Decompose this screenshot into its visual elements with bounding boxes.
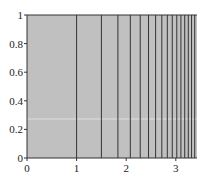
y-tick-label: 0.2 [9, 123, 23, 135]
y-tick-label: 1 [18, 9, 24, 21]
y-tick-label: 0.8 [9, 38, 23, 50]
x-tick-label: 2 [123, 162, 129, 174]
x-tick-label: 3 [173, 162, 179, 174]
y-tick-label: 0.6 [9, 66, 23, 78]
x-tick-label: 0 [24, 162, 30, 174]
y-ticks: 00.20.40.60.81 [9, 9, 27, 164]
x-tick-label: 1 [74, 162, 80, 174]
plot-area [27, 15, 197, 158]
y-tick-label: 0.4 [9, 95, 23, 107]
x-ticks: 0123 [24, 158, 179, 174]
y-tick-label: 0 [18, 152, 24, 164]
chart: 00.20.40.60.81 0123 [0, 0, 203, 178]
